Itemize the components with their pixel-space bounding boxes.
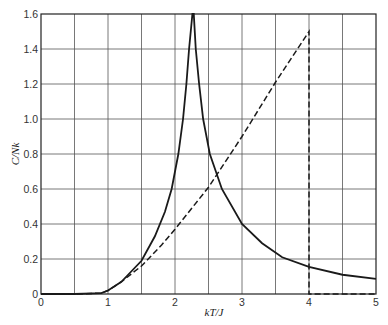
x-tick-label: 1 bbox=[105, 296, 111, 308]
y-tick-label: 1.2 bbox=[23, 78, 38, 90]
y-tick-label: 0 bbox=[32, 288, 38, 300]
y-tick-label: 1.6 bbox=[23, 8, 38, 20]
x-tick-label: 3 bbox=[239, 296, 245, 308]
x-tick-label: 4 bbox=[306, 296, 312, 308]
y-tick-label: 0.2 bbox=[23, 253, 38, 265]
x-tick-label: 5 bbox=[373, 296, 379, 308]
y-tick-label: 1.0 bbox=[23, 113, 38, 125]
x-tick-label: 2 bbox=[172, 296, 178, 308]
x-axis-label: kT/J bbox=[205, 306, 225, 318]
specific-heat-chart: 01234500.20.40.60.81.01.21.41.6 kT/J C/N… bbox=[0, 0, 388, 325]
tick-labels: 01234500.20.40.60.81.01.21.41.6 bbox=[23, 8, 379, 308]
y-axis-label: C/Nk bbox=[9, 142, 21, 166]
y-tick-label: 0.4 bbox=[23, 218, 38, 230]
y-tick-label: 0.8 bbox=[23, 148, 38, 160]
y-tick-label: 1.4 bbox=[23, 43, 38, 55]
y-tick-label: 0.6 bbox=[23, 183, 38, 195]
grid-lines bbox=[41, 14, 376, 294]
x-tick-label: 0 bbox=[38, 296, 44, 308]
